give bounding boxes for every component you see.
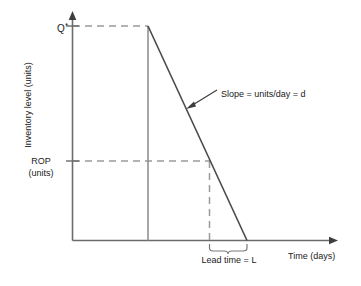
slope-arrow-shaft (191, 90, 217, 106)
lead-time-text: Lead time = (202, 255, 252, 265)
chart-plot-area (0, 0, 361, 286)
y-axis-arrowhead (69, 11, 77, 20)
q-star-superscript: * (65, 21, 68, 30)
slope-annotation-arrow (186, 90, 217, 109)
slope-arrow-head (186, 102, 196, 110)
y-axis-title: Inventory level (units) (23, 40, 33, 170)
x-axis-title: Time (days) (288, 251, 335, 262)
slope-annotation-text: Slope = units/day = (221, 89, 301, 99)
x-axis (73, 237, 339, 245)
q-star-symbol: Q (57, 23, 65, 34)
inventory-sawtooth-chart: Q* ROP (units) Inventory level (units) T… (0, 0, 361, 286)
q-star-axis-label: Q* (40, 20, 68, 34)
slope-annotation-label: Slope = units/day = d (221, 89, 306, 100)
x-axis-arrowhead (329, 237, 338, 245)
lead-time-symbol: L (251, 255, 256, 265)
lead-time-brace (210, 244, 248, 254)
slope-annotation-symbol: d (301, 89, 306, 99)
y-axis (69, 11, 77, 241)
lead-time-label: Lead time = L (185, 255, 273, 265)
demand-depletion-line (148, 26, 247, 241)
